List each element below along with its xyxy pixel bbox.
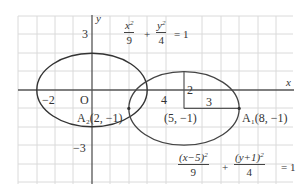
vertex-a2-label: A₂(2, −1) [77,112,123,124]
point-a2 [127,107,130,110]
tick-label-x-4: 4 [161,94,167,106]
origin-label: O [80,94,89,106]
tick-label-x-neg2: −2 [42,94,55,106]
tick-label-y-3: 3 [82,28,88,40]
y-axis-label: y [96,13,101,24]
vertex-a1-label: A₁(8, −1) [242,112,288,124]
x-axis-label: x [286,77,291,88]
semi-minor-label: 2 [187,84,193,96]
equation-original: x2 9 + y2 4 = 1 [124,20,234,52]
tick-label-y-neg3: −3 [73,142,86,154]
center-label: (5, −1) [164,112,197,124]
point-a1 [238,107,241,110]
equation-translated: (x−5)2 9 + (y+1)2 4 = 1 [178,152,308,186]
semi-major-label: 3 [206,96,212,108]
